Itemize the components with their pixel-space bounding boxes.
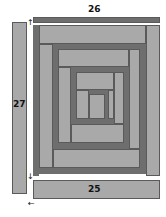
quilt-block: [33, 25, 160, 176]
ring2-top: [58, 49, 129, 67]
ring1-right-dark: [140, 44, 146, 168]
ring3-right: [114, 72, 124, 124]
ring2-left-light: [58, 67, 71, 143]
ring2-bottom-dark: [58, 143, 129, 149]
ring1-bottom-dark: [39, 168, 146, 174]
center-square: [89, 94, 105, 119]
ring2-right: [129, 49, 140, 149]
left-arrow-icon: ←: [28, 200, 35, 208]
ring3-right-light: [108, 90, 114, 119]
ring3-top: [76, 72, 114, 90]
ring3-bottom-dark: [76, 119, 114, 124]
ring1-top: [39, 25, 146, 44]
top-strip: [33, 17, 160, 23]
ring3-left-light: [76, 90, 89, 119]
strip-26-label: 26: [88, 4, 101, 14]
ring1-left-light: [39, 44, 53, 168]
ring1-bottom-light: [53, 149, 140, 168]
strip-25-label: 25: [88, 184, 101, 194]
ring1-right: [146, 25, 160, 176]
ring2-right-dark: [124, 67, 129, 143]
strip-27-label: 27: [13, 99, 26, 109]
ring2-bottom-light: [71, 124, 124, 143]
